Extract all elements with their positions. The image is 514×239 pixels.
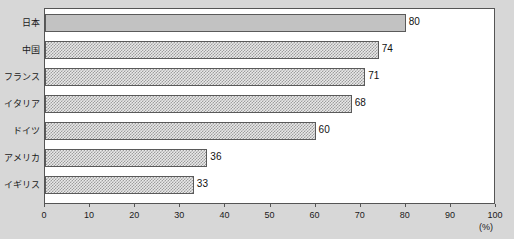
- x-axis-tick-label: 100: [487, 210, 502, 220]
- category-label: イギリス: [0, 178, 40, 191]
- bar: [45, 95, 352, 113]
- bar: [45, 68, 365, 86]
- bar-value-label: 80: [409, 17, 420, 27]
- bar: [45, 122, 316, 140]
- x-axis-tick: [495, 204, 496, 207]
- x-axis-tick-label: 40: [219, 210, 229, 220]
- bar-value-label: 60: [319, 125, 330, 135]
- category-label: ドイツ: [0, 124, 40, 137]
- x-axis-tick-label: 70: [355, 210, 365, 220]
- category-label: アメリカ: [0, 151, 40, 164]
- bar: [45, 149, 207, 167]
- x-axis-tick: [89, 204, 90, 207]
- plot-area: [44, 8, 495, 204]
- x-axis-tick: [179, 204, 180, 207]
- x-axis-tick: [405, 204, 406, 207]
- bar-value-label: 74: [382, 44, 393, 54]
- x-axis-unit-label: (%): [479, 222, 493, 232]
- x-axis-tick: [224, 204, 225, 207]
- category-label: 日本: [0, 16, 40, 29]
- category-label: フランス: [0, 70, 40, 83]
- bar: [45, 14, 406, 32]
- x-axis-tick: [450, 204, 451, 207]
- x-axis-tick-label: 30: [174, 210, 184, 220]
- x-axis-tick: [44, 204, 45, 207]
- x-axis-tick-label: 60: [310, 210, 320, 220]
- bar-value-label: 36: [210, 152, 221, 162]
- x-axis-tick-label: 10: [84, 210, 94, 220]
- bar-value-label: 68: [355, 98, 366, 108]
- bar: [45, 176, 194, 194]
- x-axis-tick-label: 80: [400, 210, 410, 220]
- x-axis-tick: [134, 204, 135, 207]
- x-axis-tick: [360, 204, 361, 207]
- category-label: イタリア: [0, 97, 40, 110]
- bar-chart: 日本中国フランスイタリアドイツアメリカイギリス 80747168603633 0…: [0, 0, 514, 239]
- x-axis-tick-label: 50: [264, 210, 274, 220]
- x-axis-tick: [315, 204, 316, 207]
- bar-value-label: 71: [368, 71, 379, 81]
- x-axis-tick-label: 0: [41, 210, 46, 220]
- x-axis-tick-label: 20: [129, 210, 139, 220]
- x-axis-tick: [270, 204, 271, 207]
- x-axis-tick-label: 90: [445, 210, 455, 220]
- category-label: 中国: [0, 43, 40, 56]
- bar: [45, 41, 379, 59]
- bar-value-label: 33: [197, 179, 208, 189]
